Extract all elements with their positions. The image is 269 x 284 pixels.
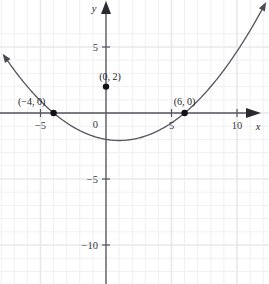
- x-tick-label: −5: [35, 120, 46, 131]
- coordinate-graph-figure: −55105−5−10 (−4, 0)(0, 2)(6, 0) x y 0: [0, 0, 269, 284]
- point-coordinate-label: (−4, 0): [18, 96, 45, 108]
- y-axis-label: y: [91, 3, 97, 14]
- point-coordinate-label: (6, 0): [174, 96, 196, 108]
- graph-canvas: −55105−5−10 (−4, 0)(0, 2)(6, 0) x y 0: [0, 0, 269, 284]
- data-point: [181, 110, 187, 116]
- y-tick-label: −10: [82, 240, 98, 251]
- data-point: [50, 110, 56, 116]
- x-axis-label: x: [255, 121, 261, 132]
- y-tick-label: 5: [93, 42, 98, 53]
- point-coordinate-label: (0, 2): [99, 71, 121, 83]
- origin-label: 0: [93, 119, 98, 130]
- x-tick-label: 10: [232, 120, 243, 131]
- y-tick-label: −5: [87, 174, 98, 185]
- data-point: [103, 83, 109, 89]
- x-tick-label: 5: [169, 120, 174, 131]
